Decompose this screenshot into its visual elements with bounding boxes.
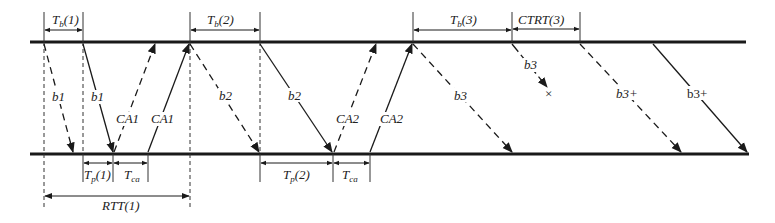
b2-solid-label: b2	[288, 88, 302, 103]
tp1-label: Tp(1)	[84, 167, 111, 184]
b1-solid-label: b1	[91, 89, 104, 104]
ca1-solid-label: CA1	[151, 111, 174, 126]
ca2-dashed-label: CA2	[336, 111, 360, 126]
timing-diagram: Tb(1) Tb(2) Tb(3) CTRT(3) Tp(1) Tca Tp(2…	[0, 0, 775, 223]
tb2-label: Tb(2)	[207, 12, 234, 29]
tick-lines	[44, 12, 580, 182]
tp2-label: Tp(2)	[283, 167, 310, 184]
tca1-label: Tca	[124, 167, 140, 184]
ca1-solid-arrow	[148, 44, 189, 152]
ca1-dashed-arrow	[114, 44, 155, 152]
ctrt3-label: CTRT(3)	[518, 12, 564, 27]
ca2-solid-arrow	[370, 44, 412, 152]
tca2-label: Tca	[342, 167, 358, 184]
b3-lost-label: b3	[524, 57, 538, 72]
b1-dashed-label: b1	[52, 89, 65, 104]
b2-dashed-label: b2	[219, 88, 233, 103]
tb3-label: Tb(3)	[450, 12, 477, 29]
b3-dashed-label: b3	[454, 88, 468, 103]
packet-lost-mark: ×	[545, 86, 552, 101]
ca1-dashed-label: CA1	[116, 111, 139, 126]
rtt1-label: RTT(1)	[101, 198, 140, 213]
b3plus-solid-label: b3+	[687, 86, 707, 101]
ca2-dashed-arrow	[334, 44, 376, 152]
tb1-label: Tb(1)	[52, 12, 79, 29]
message-arrows	[44, 44, 747, 152]
ca2-solid-label: CA2	[380, 111, 404, 126]
b3plus-dashed-label: b3+	[616, 86, 638, 101]
